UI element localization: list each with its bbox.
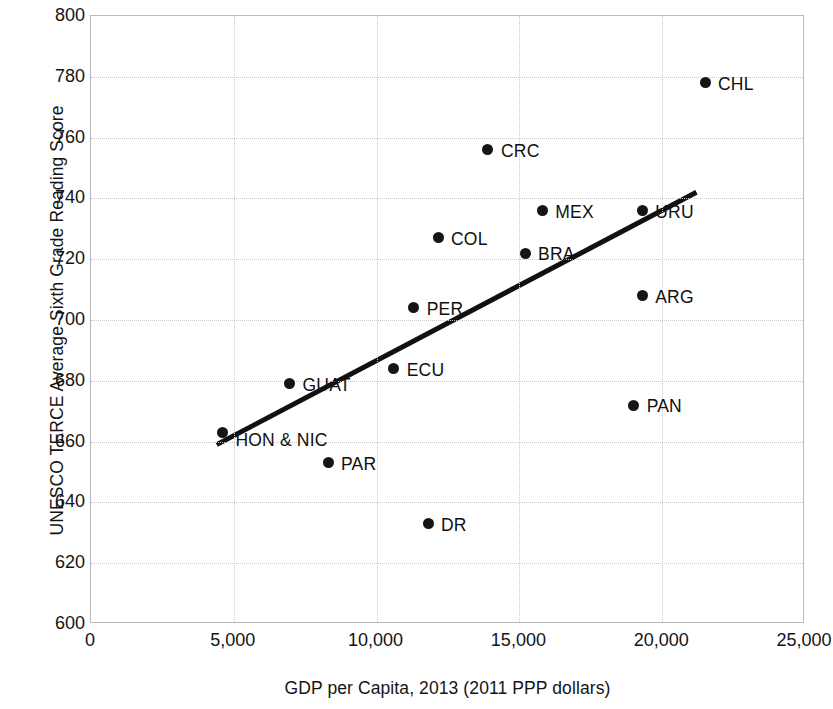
y-tick-label: 700 — [15, 309, 85, 330]
gridline-horizontal — [91, 320, 803, 321]
data-point — [423, 518, 434, 529]
data-point — [284, 378, 295, 389]
data-point — [700, 77, 711, 88]
data-point — [408, 302, 419, 313]
y-tick-label: 760 — [15, 126, 85, 147]
data-point-label: BRA — [538, 244, 575, 265]
x-tick-label: 25,000 — [776, 630, 831, 651]
y-tick-label: 600 — [15, 613, 85, 634]
data-point — [433, 232, 444, 243]
gridline-horizontal — [91, 138, 803, 139]
gridline-horizontal — [91, 77, 803, 78]
x-tick-label: 10,000 — [348, 630, 403, 651]
data-point — [388, 363, 399, 374]
data-point-label: CHL — [718, 73, 754, 94]
data-point — [323, 457, 334, 468]
data-point — [520, 248, 531, 259]
gridline-vertical — [377, 16, 378, 622]
y-tick-label: 740 — [15, 187, 85, 208]
data-point-label: ARG — [655, 286, 694, 307]
data-point-label: GUAT — [302, 374, 350, 395]
data-point-label: HON & NIC — [235, 430, 327, 451]
y-tick-label: 800 — [15, 5, 85, 26]
gridline-horizontal — [91, 502, 803, 503]
data-point — [628, 400, 639, 411]
scatter-chart-figure: UNESCO TERCE Average Sixth Grade Reading… — [0, 0, 833, 709]
gridline-horizontal — [91, 381, 803, 382]
data-point-label: PAN — [647, 396, 682, 417]
data-point-label: CRC — [501, 140, 540, 161]
data-point — [482, 144, 493, 155]
y-tick-label: 780 — [15, 65, 85, 86]
data-point-label: PER — [427, 298, 464, 319]
data-point-label: PAR — [341, 453, 376, 474]
data-point-label: ECU — [407, 359, 445, 380]
x-tick-label: 15,000 — [491, 630, 546, 651]
y-tick-label: 660 — [15, 430, 85, 451]
plot-area: HON & NICGUATPARECUPERDRCOLCRCBRAMEXPANA… — [90, 15, 804, 623]
data-point-label: MEX — [555, 201, 594, 222]
data-point — [217, 427, 228, 438]
gridline-vertical — [662, 16, 663, 622]
gridline-horizontal — [91, 563, 803, 564]
y-tick-label: 720 — [15, 248, 85, 269]
data-point-label: COL — [451, 228, 488, 249]
gridline-horizontal — [91, 259, 803, 260]
data-point-label: URU — [655, 201, 694, 222]
y-tick-label: 640 — [15, 491, 85, 512]
y-tick-label: 620 — [15, 552, 85, 573]
x-tick-label: 0 — [85, 630, 95, 651]
data-point — [537, 205, 548, 216]
y-tick-label: 680 — [15, 369, 85, 390]
x-axis-title: GDP per Capita, 2013 (2011 PPP dollars) — [90, 678, 805, 699]
data-point — [637, 290, 648, 301]
gridline-horizontal — [91, 442, 803, 443]
gridline-vertical — [519, 16, 520, 622]
data-point-label: DR — [441, 514, 467, 535]
x-tick-label: 5,000 — [210, 630, 255, 651]
gridline-horizontal — [91, 198, 803, 199]
gridline-vertical — [234, 16, 235, 622]
x-tick-label: 20,000 — [634, 630, 689, 651]
data-point — [637, 205, 648, 216]
